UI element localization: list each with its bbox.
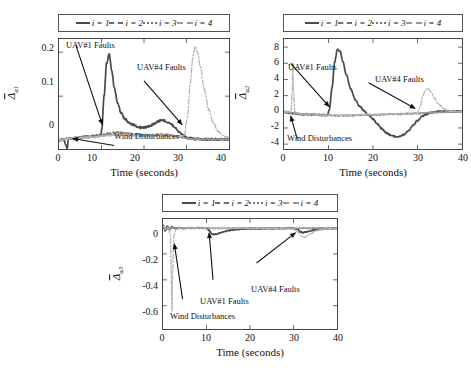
series-line <box>163 225 337 235</box>
ytick-b-0: 0 <box>253 104 279 115</box>
legend-item-i3: i = 3 <box>372 18 406 28</box>
legend-swatch-i1 <box>305 22 319 24</box>
legend-swatch-i3 <box>143 22 157 24</box>
annotation-arrow <box>76 46 103 125</box>
annotation-uav1-c: UAV#1 Faults <box>200 296 249 306</box>
legend-label-i3: i = 3 <box>388 18 406 28</box>
xtick-a-3: 30 <box>168 152 188 163</box>
ytick-b-m4: -4 <box>253 136 279 147</box>
ytick-c-1: -0.2 <box>126 254 158 265</box>
legend-panel-b: i = 1 i = 2 i = 3 i = 4 <box>283 14 463 32</box>
legend-label-i2: i = 2 <box>354 18 372 28</box>
xtick-a-1: 10 <box>82 152 102 163</box>
legend-swatch-i3 <box>249 202 263 204</box>
ylabel-b: Δa2 <box>236 86 251 99</box>
panel-delta-a3: i = 1 i = 2 i = 3 i = 4 0 -0.2 -0.4 -0.6… <box>112 186 362 376</box>
legend-swatch-i1 <box>182 202 196 204</box>
ytick-c-0: 0 <box>126 228 158 239</box>
legend-item-i1: i = 1 <box>305 18 339 28</box>
legend-panel-a: i = 1 i = 2 i = 3 i = 4 <box>58 14 230 32</box>
ytick-b-8: 8 <box>253 41 279 52</box>
ylabel-c-sub: a3 <box>117 267 125 274</box>
legend-label-i2: i = 2 <box>231 198 249 208</box>
xlabel-b: Time (seconds) <box>283 166 463 178</box>
xtick-a-4: 40 <box>211 152 231 163</box>
xtick-b-3: 30 <box>408 152 428 163</box>
annotation-uav4-a: UAV#4 Faults <box>137 62 186 72</box>
legend-item-i2: i = 2 <box>215 198 249 208</box>
annotation-arrow <box>207 233 213 280</box>
legend-item-i1: i = 1 <box>76 18 110 28</box>
legend-item-i4: i = 4 <box>177 18 213 28</box>
annotation-wind-c: Wind Disturbances <box>170 311 235 321</box>
annotation-uav4-b: UAV#4 Faults <box>375 74 424 84</box>
legend-label-i4: i = 4 <box>424 18 442 28</box>
legend-swatch-i4 <box>283 202 299 204</box>
legend-item-i3: i = 3 <box>249 198 283 208</box>
xlabel-c: Time (seconds) <box>162 346 338 358</box>
legend-label-i2: i = 2 <box>125 18 143 28</box>
legend-swatch-i2 <box>338 22 352 24</box>
legend-swatch-i1 <box>76 22 90 24</box>
series-line <box>163 226 337 311</box>
legend-item-i1: i = 1 <box>182 198 216 208</box>
ylabel-c: Δa3 <box>110 267 125 280</box>
panel-delta-a2: i = 1 i = 2 i = 3 i = 4 8 6 4 2 0 -2 -4 … <box>235 0 471 190</box>
xtick-b-2: 20 <box>363 152 383 163</box>
legend-item-i4: i = 4 <box>283 198 319 208</box>
xtick-c-1: 10 <box>196 332 216 343</box>
ylabel-b-sub: a2 <box>243 86 251 93</box>
annotation-arrow <box>369 83 416 109</box>
legend-label-i3: i = 3 <box>159 18 177 28</box>
annotation-arrow <box>173 244 183 300</box>
legend-label-i1: i = 1 <box>321 18 339 28</box>
ytick-b-2: 2 <box>253 88 279 99</box>
legend-item-i2: i = 2 <box>109 18 143 28</box>
ytick-b-m2: -2 <box>253 120 279 131</box>
xtick-b-1: 10 <box>318 152 338 163</box>
legend-swatch-i4 <box>406 22 422 24</box>
ytick-b-6: 6 <box>253 56 279 67</box>
annotation-uav1-b: UAV#1 Faults <box>288 62 337 72</box>
annotation-wind-b: Wind Disturbances <box>287 133 352 143</box>
annotation-uav4-c: UAV#4 Faults <box>251 284 300 294</box>
legend-swatch-i4 <box>177 22 193 24</box>
xtick-b-4: 40 <box>453 152 471 163</box>
xtick-b-0: 0 <box>273 152 293 163</box>
ytick-c-3: -0.6 <box>126 306 158 317</box>
legend-swatch-i2 <box>215 202 229 204</box>
xtick-c-4: 40 <box>328 332 348 343</box>
annotation-arrow <box>257 233 296 263</box>
ylabel-a-sub: a1 <box>12 86 20 93</box>
panel-delta-a1: i = 1 i = 2 i = 3 i = 4 0.2 0.1 0 Δa1 0 … <box>0 0 240 190</box>
legend-swatch-i3 <box>372 22 386 24</box>
legend-panel-c: i = 1 i = 2 i = 3 i = 4 <box>162 194 338 212</box>
ylabel-a: Δa1 <box>5 86 20 99</box>
legend-label-i1: i = 1 <box>198 198 216 208</box>
xtick-c-3: 30 <box>284 332 304 343</box>
ytick-c-2: -0.4 <box>126 280 158 291</box>
annotation-wind-a: Wind Disturbances <box>114 131 179 141</box>
legend-item-i4: i = 4 <box>406 18 442 28</box>
legend-label-i4: i = 4 <box>301 198 319 208</box>
xlabel-a: Time (seconds) <box>58 166 230 178</box>
legend-label-i4: i = 4 <box>195 18 213 28</box>
annotation-arrow <box>144 81 182 125</box>
ytick-a-1: 0.1 <box>22 76 54 87</box>
ytick-a-0: 0.2 <box>22 42 54 53</box>
xtick-c-2: 20 <box>240 332 260 343</box>
legend-swatch-i2 <box>109 22 123 24</box>
legend-item-i3: i = 3 <box>143 18 177 28</box>
annotation-uav1-a: UAV#1 Faults <box>66 40 115 50</box>
legend-item-i2: i = 2 <box>338 18 372 28</box>
xtick-a-0: 0 <box>48 152 68 163</box>
xtick-c-0: 0 <box>152 332 172 343</box>
xtick-a-2: 20 <box>125 152 145 163</box>
legend-label-i3: i = 3 <box>265 198 283 208</box>
ytick-b-4: 4 <box>253 72 279 83</box>
legend-label-i1: i = 1 <box>92 18 110 28</box>
ytick-a-2: 0 <box>22 119 54 130</box>
